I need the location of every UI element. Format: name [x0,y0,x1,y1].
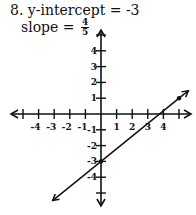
data-point [177,96,181,100]
y-tick-label: 4 [91,46,97,56]
x-tick-label: -3 [46,122,56,132]
x-tick-label: -4 [31,122,41,132]
x-tick-label: 2 [129,122,135,132]
y-tick-label: 1 [91,93,97,103]
data-point [99,159,103,163]
line-path [53,91,189,201]
coordinate-plane: -4-3-2-11234 4321-1-2-3-4 [0,0,196,215]
y-tick-label: -2 [87,141,97,151]
y-tick-label: -4 [87,172,97,182]
y-tick-label: -1 [87,125,97,135]
y-tick-label: 2 [91,77,97,87]
x-tick-label: 1 [113,122,119,132]
x-tick-label: -2 [62,122,72,132]
y-tick-label: 3 [91,62,97,72]
x-tick-label: 4 [160,122,166,132]
line-series [53,91,189,201]
x-tick-label: -1 [77,122,87,132]
